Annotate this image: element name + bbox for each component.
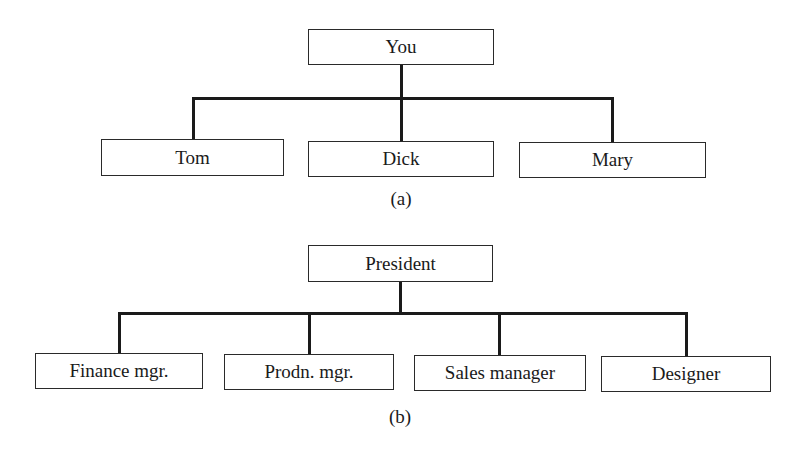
node-mary: Mary	[519, 142, 706, 178]
caption-b: (b)	[389, 406, 411, 428]
node-prodn-mgr: Prodn. mgr.	[224, 354, 394, 390]
node-tom: Tom	[101, 139, 284, 176]
connector-finance	[118, 312, 121, 353]
node-label: Dick	[383, 148, 420, 170]
connector-root-down	[400, 65, 403, 99]
connector-mary	[611, 97, 614, 142]
node-label: Sales manager	[445, 362, 555, 384]
connector-sales	[498, 312, 501, 355]
node-label: President	[365, 253, 436, 275]
node-you: You	[308, 29, 494, 65]
connector-dick	[400, 97, 403, 141]
node-label: Tom	[175, 147, 210, 169]
node-label: You	[386, 36, 417, 58]
connector-designer	[685, 312, 688, 356]
node-label: Prodn. mgr.	[264, 361, 353, 383]
connector-root-down	[399, 282, 402, 313]
caption-a: (a)	[390, 188, 411, 210]
node-finance-mgr: Finance mgr.	[35, 353, 203, 389]
node-label: Finance mgr.	[69, 360, 168, 382]
node-sales-manager: Sales manager	[414, 355, 586, 391]
connector-prodn	[308, 312, 311, 354]
node-dick: Dick	[308, 141, 494, 177]
node-designer: Designer	[601, 356, 771, 392]
node-president: President	[308, 245, 493, 282]
node-label: Designer	[652, 363, 721, 385]
node-label: Mary	[592, 149, 633, 171]
connector-tom	[192, 97, 195, 139]
connector-horizontal	[192, 97, 614, 100]
connector-horizontal	[118, 312, 688, 315]
